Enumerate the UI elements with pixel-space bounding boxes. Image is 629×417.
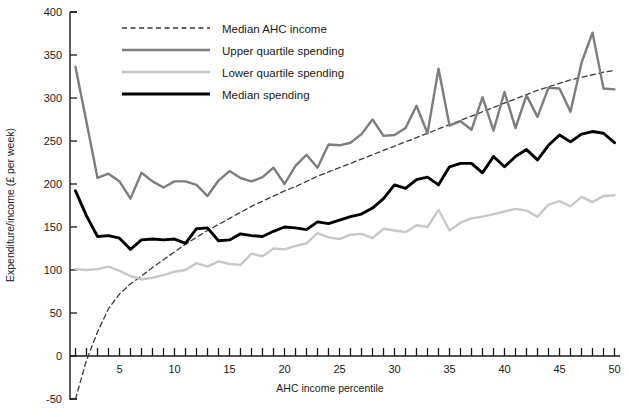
y-tick-label: 100 (44, 264, 62, 276)
x-tick-label: 15 (223, 363, 235, 375)
series-group (76, 33, 615, 399)
chart-container: -50050100150200250300350400 510152025303… (0, 0, 629, 417)
y-tick-label: 400 (44, 6, 62, 18)
x-tick-label: 40 (498, 363, 510, 375)
legend-label-median-spending[interactable]: Median spending (222, 89, 310, 101)
x-tick-label: 50 (608, 363, 620, 375)
axes-group (70, 12, 620, 399)
y-tick-label: 300 (44, 92, 62, 104)
y-tick-label: 50 (50, 307, 62, 319)
legend-label-upper-quartile-spending[interactable]: Upper quartile spending (222, 45, 344, 57)
x-tick-label: 45 (553, 363, 565, 375)
x-tick-label: 5 (116, 363, 122, 375)
series-median-spending (76, 132, 615, 250)
y-axis-title: Expenditure/income (£ per week) (4, 128, 16, 282)
y-tick-label: 0 (56, 350, 62, 362)
legend-label-lower-quartile-spending[interactable]: Lower quartile spending (222, 67, 344, 79)
y-axis-tick-labels: -50050100150200250300350400 (44, 6, 62, 405)
x-tick-label: 10 (168, 363, 180, 375)
series-upper-quartile-spending (76, 33, 615, 199)
x-tick-label: 20 (278, 363, 290, 375)
y-tick-label: 150 (44, 221, 62, 233)
y-tick-label: 200 (44, 178, 62, 190)
series-lower-quartile-spending (76, 195, 615, 279)
x-axis-title: AHC income percentile (276, 382, 384, 394)
chart-legend: Median AHC incomeUpper quartile spending… (122, 23, 344, 101)
y-tick-label: 350 (44, 49, 62, 61)
y-tick-label: -50 (46, 393, 62, 405)
x-axis-tick-labels: 5101520253035404550 (116, 363, 620, 375)
x-tick-label: 35 (443, 363, 455, 375)
y-tick-label: 250 (44, 135, 62, 147)
legend-label-median-ahc-income[interactable]: Median AHC income (222, 23, 327, 35)
series-median-ahc-income (76, 70, 615, 399)
line-chart: -50050100150200250300350400 510152025303… (0, 0, 629, 417)
x-tick-label: 30 (388, 363, 400, 375)
x-tick-label: 25 (333, 363, 345, 375)
x-axis-ticks (76, 348, 615, 356)
